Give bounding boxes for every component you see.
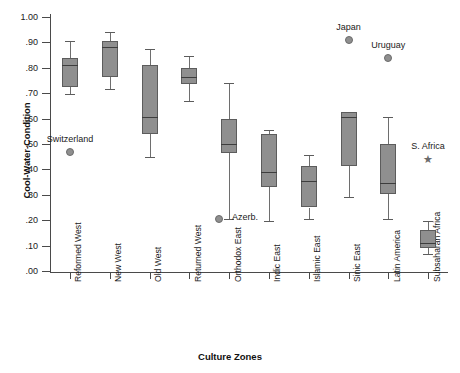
x-tick-mark — [229, 273, 230, 279]
x-tick-mark — [110, 273, 111, 279]
y-tick-mark — [42, 42, 50, 43]
whisker-upper — [229, 83, 230, 119]
y-tick-mark — [42, 195, 50, 196]
y-tick-mark — [42, 144, 50, 145]
median-line — [142, 117, 158, 118]
y-tick-mark — [42, 271, 50, 272]
whisker-cap-lower — [344, 197, 354, 198]
whisker-upper — [150, 49, 151, 66]
y-tick-mark — [42, 169, 50, 170]
outlier-marker-japan — [345, 36, 353, 44]
outlier-marker-azerb- — [215, 215, 223, 223]
x-tick-mark — [150, 273, 151, 279]
y-tick-label: .70 — [0, 88, 38, 98]
y-tick-label: .30 — [0, 190, 38, 200]
x-axis-title: Culture Zones — [0, 351, 460, 362]
outlier-label-uruguay: Uruguay — [371, 40, 405, 50]
y-tick-label: .60 — [0, 114, 38, 124]
box-iqr — [301, 166, 317, 208]
median-line — [420, 243, 436, 244]
x-tick-label-new-west: New West — [113, 243, 123, 282]
y-tick-label: .50 — [0, 139, 38, 149]
x-tick-label-sinic-east: Sinic East — [352, 244, 362, 282]
whisker-cap-upper — [184, 56, 194, 57]
y-tick-mark — [42, 220, 50, 221]
y-tick-mark — [42, 68, 50, 69]
y-tick-label: .80 — [0, 63, 38, 73]
whisker-upper — [70, 41, 71, 58]
whisker-lower — [110, 77, 111, 90]
y-tick-mark — [42, 93, 50, 94]
median-line — [301, 181, 317, 182]
whisker-cap-lower — [145, 157, 155, 158]
whisker-upper — [189, 56, 190, 67]
median-line — [341, 117, 357, 118]
box-iqr — [102, 41, 118, 77]
x-tick-mark — [428, 273, 429, 279]
y-tick-label: 1.00 — [0, 12, 38, 22]
median-line — [62, 65, 78, 66]
y-tick-label: .90 — [0, 37, 38, 47]
whisker-cap-lower — [383, 219, 393, 220]
outlier-label-s-africa: S. Africa — [411, 141, 445, 151]
whisker-lower — [309, 208, 310, 219]
whisker-cap-upper — [304, 155, 314, 156]
x-tick-label-indic-east: Indic East — [272, 244, 282, 282]
y-tick-label: .00 — [0, 266, 38, 276]
whisker-upper — [388, 117, 389, 144]
whisker-upper — [309, 155, 310, 165]
box-iqr — [261, 134, 277, 187]
whisker-lower — [349, 166, 350, 198]
whisker-cap-lower — [65, 94, 75, 95]
median-line — [380, 183, 396, 184]
outlier-label-azerb-: Azerb. — [232, 212, 258, 222]
whisker-cap-lower — [105, 89, 115, 90]
whisker-cap-upper — [145, 49, 155, 50]
whisker-upper — [110, 32, 111, 41]
x-tick-label-old-west: Old West — [153, 247, 163, 282]
x-tick-mark — [388, 273, 389, 279]
x-tick-label-orthodox-east: Orthodox East — [233, 227, 243, 282]
whisker-cap-upper — [65, 41, 75, 42]
x-tick-mark — [70, 273, 71, 279]
x-tick-label-returned-west: Returned West — [193, 225, 203, 282]
y-tick-mark — [42, 17, 50, 18]
box-iqr — [380, 144, 396, 194]
x-tick-mark — [349, 273, 350, 279]
median-line — [102, 47, 118, 48]
median-line — [221, 144, 237, 145]
y-tick-mark — [42, 246, 50, 247]
whisker-cap-upper — [383, 117, 393, 118]
y-tick-label: .40 — [0, 164, 38, 174]
whisker-lower — [150, 134, 151, 157]
x-tick-label-islamic-east: Islamic East — [312, 236, 322, 282]
box-iqr — [341, 112, 357, 165]
whisker-lower — [229, 153, 230, 219]
outlier-marker-uruguay — [384, 54, 392, 62]
whisker-cap-lower — [304, 219, 314, 220]
box-iqr — [142, 65, 158, 134]
whisker-lower — [70, 87, 71, 95]
y-tick-label: .20 — [0, 215, 38, 225]
whisker-lower — [189, 84, 190, 101]
outlier-marker-s-africa: ★ — [423, 154, 433, 165]
box-iqr — [420, 230, 436, 248]
box-iqr — [221, 119, 237, 153]
x-tick-label-reformed-west: Reformed West — [73, 222, 83, 282]
whisker-cap-upper — [105, 32, 115, 33]
x-tick-mark — [269, 273, 270, 279]
median-line — [181, 77, 197, 78]
boxplot-chart: Cool-Water-Condition 1.00.90.80.70.60.50… — [0, 0, 460, 373]
box-iqr — [62, 58, 78, 87]
whisker-upper — [428, 221, 429, 230]
outlier-label-switzerland: Switzerland — [47, 134, 94, 144]
whisker-lower — [388, 194, 389, 219]
whisker-cap-lower — [264, 221, 274, 222]
x-tick-mark — [309, 273, 310, 279]
whisker-cap-upper — [423, 221, 433, 222]
median-line — [261, 172, 277, 173]
x-tick-label-latin-america: Latin America — [392, 230, 402, 282]
x-tick-mark — [189, 273, 190, 279]
outlier-marker-switzerland — [66, 148, 74, 156]
y-tick-label: .10 — [0, 241, 38, 251]
